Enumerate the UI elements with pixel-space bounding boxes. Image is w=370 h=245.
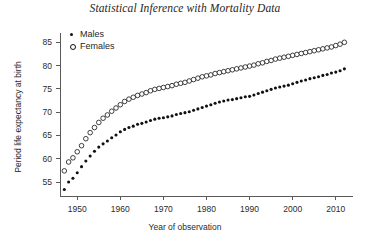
- data-point: [132, 125, 135, 128]
- data-point: [88, 130, 93, 135]
- data-point: [170, 114, 173, 117]
- data-point: [325, 46, 330, 51]
- data-point: [76, 171, 79, 174]
- data-point: [287, 84, 290, 87]
- data-point: [286, 54, 291, 59]
- data-point: [277, 56, 282, 61]
- data-point: [97, 146, 100, 149]
- data-point: [234, 67, 239, 72]
- data-point: [80, 165, 83, 168]
- data-point: [84, 136, 89, 141]
- x-axis-label: Year of observation: [0, 222, 370, 232]
- data-point: [187, 79, 192, 84]
- y-tick-label: 70: [30, 107, 52, 117]
- data-point: [239, 66, 244, 71]
- data-point: [278, 85, 281, 88]
- data-point: [283, 85, 286, 88]
- data-point: [79, 143, 84, 148]
- data-point: [261, 91, 264, 94]
- y-tick-label: 80: [30, 61, 52, 71]
- data-point: [247, 64, 252, 69]
- data-point: [339, 69, 342, 72]
- data-point: [226, 99, 229, 102]
- data-point: [89, 154, 92, 157]
- data-point: [265, 89, 268, 92]
- data-point: [299, 51, 304, 56]
- x-tick-label: 1980: [190, 204, 224, 214]
- data-point: [179, 112, 182, 115]
- y-tick-label: 75: [30, 84, 52, 94]
- data-point: [71, 177, 74, 180]
- data-point: [145, 120, 148, 123]
- data-point: [290, 53, 295, 58]
- data-point: [105, 113, 110, 118]
- data-point: [304, 78, 307, 81]
- data-point: [244, 95, 247, 98]
- data-point: [308, 77, 311, 80]
- series-males: [63, 67, 346, 191]
- x-tick-label: 2010: [319, 204, 353, 214]
- data-point: [191, 77, 196, 82]
- data-point: [312, 48, 317, 53]
- data-point: [101, 116, 106, 121]
- data-point: [218, 100, 221, 103]
- data-point: [192, 109, 195, 112]
- data-point: [257, 92, 260, 95]
- legend-label-males: Males: [80, 29, 104, 39]
- filled-circle-icon: [70, 33, 73, 36]
- data-point: [140, 122, 143, 125]
- data-point: [166, 115, 169, 118]
- data-point: [161, 85, 166, 90]
- chart-figure: Statistical Inference with Mortality Dat…: [0, 0, 370, 245]
- data-point: [196, 107, 199, 110]
- data-point: [75, 149, 80, 154]
- data-point: [321, 47, 326, 52]
- data-point: [308, 49, 313, 54]
- data-point: [252, 63, 257, 68]
- data-point: [300, 79, 303, 82]
- data-point: [222, 99, 225, 102]
- data-point: [273, 57, 278, 62]
- x-tick-label: 2000: [276, 204, 310, 214]
- data-point: [252, 93, 255, 96]
- data-point: [92, 125, 97, 130]
- data-point: [67, 180, 70, 183]
- data-point: [96, 120, 101, 125]
- y-tick-label: 65: [30, 130, 52, 140]
- data-point: [248, 95, 251, 98]
- data-point: [231, 98, 234, 101]
- x-tick-label: 1990: [233, 204, 267, 214]
- data-point: [209, 73, 214, 78]
- data-point: [265, 59, 270, 64]
- data-point: [131, 95, 136, 100]
- open-circle-icon: [70, 44, 76, 50]
- data-point: [123, 128, 126, 131]
- data-point: [183, 111, 186, 114]
- data-point: [93, 150, 96, 153]
- data-point: [102, 142, 105, 145]
- data-point: [260, 61, 265, 66]
- data-point: [66, 160, 71, 165]
- data-point: [114, 106, 119, 111]
- data-point: [326, 73, 329, 76]
- data-point: [106, 140, 109, 143]
- data-point: [127, 126, 130, 129]
- data-point: [321, 74, 324, 77]
- data-point: [201, 106, 204, 109]
- data-point: [333, 43, 338, 48]
- data-point: [303, 50, 308, 55]
- data-point: [114, 133, 117, 136]
- data-point: [235, 97, 238, 100]
- data-point: [200, 74, 205, 79]
- data-point: [62, 169, 67, 174]
- data-point: [170, 83, 175, 88]
- data-point: [122, 99, 127, 104]
- data-point: [282, 55, 287, 60]
- data-point: [338, 42, 343, 47]
- data-point: [149, 119, 152, 122]
- data-point: [140, 92, 145, 97]
- x-tick-label: 1960: [103, 204, 137, 214]
- data-point: [342, 40, 347, 45]
- data-point: [226, 68, 231, 73]
- data-point: [204, 74, 209, 79]
